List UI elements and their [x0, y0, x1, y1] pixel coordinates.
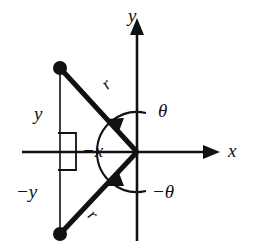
negative-x-segment-label: −x — [82, 141, 103, 160]
x-axis-label: x — [228, 141, 236, 160]
polar-coordinate-diagram — [0, 0, 255, 248]
y-segment-label: y — [34, 104, 42, 123]
upper-point-marker — [53, 61, 67, 75]
lower-point-marker — [53, 227, 67, 241]
theta-label: θ — [158, 101, 167, 120]
x-axis-arrowhead — [203, 145, 220, 159]
y-axis-label: y — [128, 6, 136, 25]
negative-y-segment-label: −y — [16, 182, 37, 201]
figure-canvas: y x θ −θ r r y −y −x — [0, 0, 255, 248]
negative-theta-label: −θ — [152, 182, 174, 201]
